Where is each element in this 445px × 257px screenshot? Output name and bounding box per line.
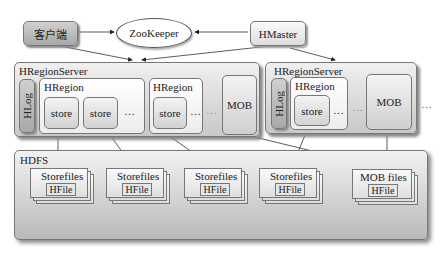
hlog-label: HLog <box>273 91 285 117</box>
storefiles-stack: Storefiles HFile <box>259 168 325 208</box>
hfile-box: HFile <box>200 183 230 196</box>
hlog-label: HLog <box>21 93 33 119</box>
hlog-box: HLog <box>19 79 35 133</box>
hfile-box: HFile <box>122 183 152 196</box>
store-label: store <box>90 107 111 119</box>
store-box: store <box>294 95 330 126</box>
mob-label: MOB <box>227 99 252 111</box>
region-server-title: HRegionServer <box>274 65 342 77</box>
storefiles-stack: Storefiles HFile <box>106 168 172 208</box>
store-box: store <box>44 97 79 129</box>
hfile-label: HFile <box>279 184 302 195</box>
region-server-1: HRegionServer HLog HRegion store store …… <box>14 62 260 137</box>
hdfs-title: HDFS <box>20 154 48 166</box>
hfile-box: HFile <box>275 183 305 196</box>
file-label: Storefiles <box>195 170 237 182</box>
zookeeper-label: ZooKeeper <box>129 27 178 39</box>
ellipsis: … <box>352 101 363 113</box>
hregion-title: HRegion <box>295 80 335 92</box>
mob-box: MOB <box>366 74 412 130</box>
file-label: Storefiles <box>41 170 83 182</box>
store-box: store <box>153 97 187 129</box>
hlog-box: HLog <box>271 78 287 129</box>
mob-files-stack: MOB files HFile <box>352 169 422 209</box>
hmaster-label: HMaster <box>259 28 298 40</box>
hfile-label: HFile <box>126 184 149 195</box>
hregion-title: HRegion <box>153 81 193 93</box>
mob-label: MOB <box>376 96 401 108</box>
hfile-label: HFile <box>50 184 73 195</box>
ellipsis: … <box>190 105 201 117</box>
region-server-2: HRegionServer HLog HRegion store … … MOB <box>265 62 417 134</box>
hfile-box: HFile <box>46 183 76 196</box>
hregion-box: HRegion store … <box>149 78 203 134</box>
file-label: MOB files <box>360 171 407 183</box>
store-box: store <box>83 97 118 129</box>
store-label: store <box>159 107 180 119</box>
zookeeper-cloud: ZooKeeper <box>116 18 192 48</box>
ellipsis: … <box>421 98 432 110</box>
region-server-title: HRegionServer <box>19 65 87 77</box>
mob-box: MOB <box>222 75 257 135</box>
store-label: store <box>301 105 322 117</box>
store-label: store <box>51 107 72 119</box>
client-node: 客户端 <box>23 21 78 46</box>
file-label: Storefiles <box>270 170 312 182</box>
ellipsis: … <box>124 105 135 117</box>
hregion-box: HRegion store store … <box>39 78 145 134</box>
storefiles-stack: Storefiles HFile <box>30 168 96 208</box>
hregion-box: HRegion store … <box>290 77 348 130</box>
hregion-title: HRegion <box>44 81 84 93</box>
file-label: Storefiles <box>117 170 159 182</box>
storefiles-stack: Storefiles HFile <box>184 168 250 208</box>
hfile-label: HFile <box>204 184 227 195</box>
ellipsis: … <box>333 104 344 116</box>
hmaster-node: HMaster <box>250 21 306 46</box>
hfile-box: HFile <box>368 184 398 197</box>
hfile-label: HFile <box>372 185 395 196</box>
ellipsis: … <box>206 104 217 116</box>
client-label: 客户端 <box>34 26 67 42</box>
